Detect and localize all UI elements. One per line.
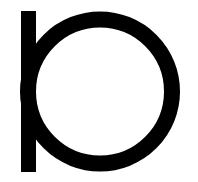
ring-bar-logo-icon — [0, 0, 198, 182]
vertical-bar-shape — [21, 11, 36, 172]
